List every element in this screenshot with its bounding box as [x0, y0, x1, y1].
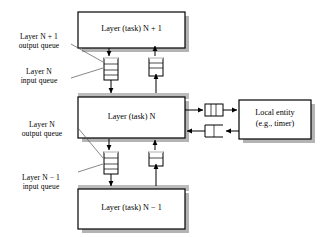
callout-layer-n-minus-1-input-queue-line1: Layer N − 1 — [8, 173, 74, 182]
callout-layer-n-output-queue-line1: Layer N — [10, 120, 74, 129]
callout-layer-n-plus-1-output-queue-line2: output queue — [8, 41, 70, 50]
box-label-local-entity-line2: (e.g., timer) — [239, 119, 311, 129]
callout-layer-n-plus-1-output-queue-line1: Layer N + 1 — [8, 32, 70, 41]
box-label-local-entity-line1: Local entity — [239, 108, 311, 118]
queue-lower-right[interactable] — [149, 140, 163, 186]
queue-upper-right[interactable] — [149, 46, 163, 93]
callout-layer-n-minus-1-input-queue-line2: input queue — [8, 182, 74, 191]
box-label-layer-n-minus-1: Layer (task) N − 1 — [78, 203, 185, 213]
callout-layer-n-output-queue-line2: output queue — [10, 129, 74, 138]
callout-layer-n-input-queue-line1: Layer N — [8, 67, 70, 76]
queue-right-out[interactable] — [185, 104, 237, 116]
callout-layer-n-input-queue-line2: input queue — [8, 76, 70, 85]
diagram-canvas: Layer (task) N + 1 Layer (task) N Layer … — [0, 0, 325, 237]
box-label-layer-n-plus-1: Layer (task) N + 1 — [78, 24, 185, 34]
box-label-layer-n: Layer (task) N — [78, 112, 185, 122]
queue-right-in[interactable] — [187, 125, 239, 137]
queue-lower-left[interactable] — [104, 139, 118, 186]
queue-upper-left[interactable] — [104, 48, 118, 93]
